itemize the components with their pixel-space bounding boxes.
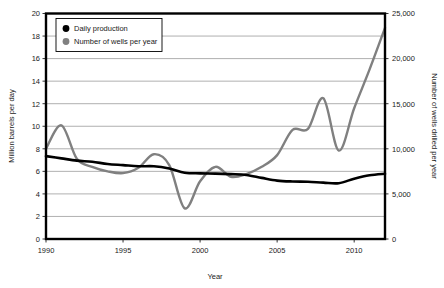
y2-tick-label: 20,000 [392,54,415,63]
y-tick-label: 14 [32,77,40,86]
x-tick-label: 2010 [346,246,363,255]
x-tick-label: 2005 [269,246,286,255]
x-tick-label: 2000 [192,246,209,255]
y2-tick-label: 25,000 [392,9,415,18]
y-tick-label: 20 [32,9,40,18]
chart-container: 02468101214161820 05,00010,00015,00020,0… [0,0,444,288]
y-tick-label: 2 [36,212,40,221]
y2-tick-label: 15,000 [392,100,415,109]
chart-legend: Daily production Number of wells per yea… [56,19,162,52]
legend-marker-number-of-wells [63,38,70,45]
y2-tick-label: 10,000 [392,145,415,154]
y-tick-label: 6 [36,167,40,176]
x-tick-label: 1990 [38,246,55,255]
y-tick-label: 10 [32,122,40,131]
y-axis-title: Million barrels per day [7,89,16,163]
y-tick-label: 0 [36,235,40,244]
x-tick-label: 1995 [115,246,132,255]
y-tick-label: 8 [36,145,40,154]
legend-label-daily-production: Daily production [74,24,128,33]
x-axis-title: Year [207,272,223,281]
y2-axis-title: Number of wells drilled per year [430,73,439,179]
y-tick-label: 18 [32,32,40,41]
y2-tick-label: 5,000 [392,190,411,199]
legend-label-number-of-wells: Number of wells per year [74,37,158,46]
legend-marker-daily-production [63,25,70,32]
y-tick-label: 4 [36,190,40,199]
y-tick-label: 12 [32,100,40,109]
y-tick-label: 16 [32,54,40,63]
line-chart: 02468101214161820 05,00010,00015,00020,0… [0,0,444,288]
y2-tick-label: 0 [392,235,396,244]
